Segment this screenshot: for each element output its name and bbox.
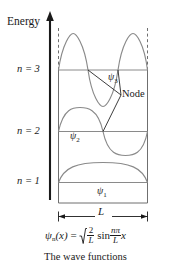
wave-label-psi1: ψ1 xyxy=(97,186,107,199)
formula-trailing-variable: x xyxy=(121,229,126,241)
formula-argument-fraction: nπL xyxy=(110,226,121,246)
figure-caption: The wave functions xyxy=(0,251,171,262)
formula-sin: sin xyxy=(97,229,110,241)
formula-radical: 2L xyxy=(79,226,94,246)
formula-argument: (x) xyxy=(55,229,67,241)
radical-sign-icon xyxy=(79,227,87,245)
wave-curve-psi1 xyxy=(59,163,148,183)
energy-level-label-n2: n = 2 xyxy=(17,126,40,137)
psi1-subscript: 1 xyxy=(103,191,107,199)
psi2-subscript: 2 xyxy=(76,136,80,144)
node-annotation-label: Node xyxy=(122,89,145,100)
energy-axis-label: Energy xyxy=(7,16,40,28)
formula-radicand-fraction: 2L xyxy=(87,226,94,246)
formula-equals: = xyxy=(70,229,76,241)
psi3-subscript: 3 xyxy=(114,77,118,85)
box-width-label: L xyxy=(98,206,104,217)
formula-psi: ψ xyxy=(45,229,52,241)
radicand-denominator: L xyxy=(87,236,94,245)
wave-function-formula: ψn(x) = 2L sinnπLx xyxy=(0,226,171,246)
energy-level-label-n1: n = 1 xyxy=(17,176,40,187)
wave-label-psi3: ψ3 xyxy=(108,72,118,85)
energy-axis-arrow xyxy=(46,11,54,200)
argument-denominator: L xyxy=(110,236,121,245)
energy-level-label-n3: n = 3 xyxy=(17,64,40,75)
wave-label-psi2: ψ2 xyxy=(70,131,80,144)
